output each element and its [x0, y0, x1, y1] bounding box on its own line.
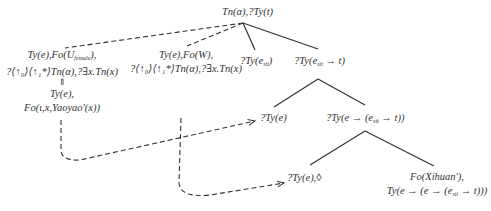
unfixed-node-female: Ty(e),Fo(Ufemale), ?⟨↑₀⟩⟨↑₁*⟩Tn(α),?∃x.T… [6, 48, 118, 79]
edge-predicate-subject [274, 79, 318, 107]
verb-node-line1: Fo(Xihuan'), [383, 170, 491, 184]
predicate-node: ?Ty(esit → t) [294, 54, 345, 71]
linked-node: ⇑ Ty(e), Fo(ι,x,Yaoyao'(x)) [12, 78, 112, 115]
root-label: Tn(α),?Ty(t) [222, 6, 273, 17]
verb-phrase-node: ?Ty(e → (esit → t)) [326, 111, 404, 128]
linked-node-line2: Fo(ι,x,Yaoyao'(x)) [12, 101, 112, 115]
edge-predicate-vp [318, 79, 365, 105]
w-node-line2: ?⟨↑₀⟩⟨↑₁*⟩Tn(α),?∃x.Tn(x) [128, 62, 244, 76]
verb-node-line2: Ty(e → (e → (esit → t))) [383, 184, 491, 201]
verb-node: Fo(Xihuan'), Ty(e → (e → (esit → t))) [383, 170, 491, 201]
female-node-line1: Ty(e),Fo(Ufemale), [6, 48, 118, 65]
dashed-linked-to-subject [61, 120, 255, 160]
dashed-w-to-object [179, 118, 284, 196]
object-node: ?Ty(e),◊ [287, 171, 321, 185]
edge-vp-verb [365, 131, 434, 166]
linked-node-line1: Ty(e), [12, 87, 112, 101]
subject-node: ?Ty(e) [260, 111, 287, 125]
dashed-root-female [65, 23, 243, 48]
link-up-arrow-icon: ⇑ [12, 78, 112, 87]
tree-diagram: Tn(α),?Ty(t) Ty(e),Fo(Ufemale), ?⟨↑₀⟩⟨↑₁… [0, 0, 491, 211]
root-node: Tn(α),?Ty(t) [222, 5, 273, 19]
edge-vp-object [310, 131, 365, 165]
unfixed-node-w: Ty(e),Fo(W), ?⟨↑₀⟩⟨↑₁*⟩Tn(α),?∃x.Tn(x) [128, 48, 244, 76]
event-node: ?Ty(esit) [240, 54, 272, 71]
edge-root-predicate [243, 23, 318, 49]
w-node-line1: Ty(e),Fo(W), [128, 48, 244, 62]
